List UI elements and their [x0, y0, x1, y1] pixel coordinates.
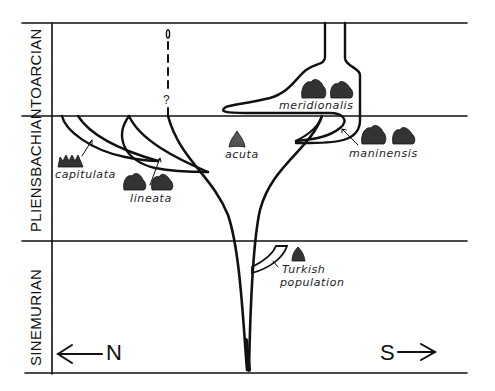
uncertain-lineage-top	[166, 30, 169, 38]
taxon-label-population: population	[280, 276, 345, 289]
diagram-canvas: ?	[0, 0, 495, 391]
maninensis-tooth-icon-2	[393, 127, 415, 144]
lineata-tooth-icon-1	[124, 173, 146, 190]
maninensis-tooth-icon-1	[362, 125, 386, 144]
direction-south-label: S	[380, 340, 395, 366]
turkish-tooth-icon	[292, 247, 305, 261]
stage-label-toarcian: TOARCIAN	[27, 28, 44, 108]
meridionalis-tooth-icon-1	[302, 79, 326, 98]
meridionalis-lineage-outer	[223, 23, 344, 141]
acuta-tooth-icon	[229, 131, 245, 147]
lineata-tooth-icon-2	[152, 174, 173, 190]
meridionalis-tooth-icon-2	[331, 81, 353, 98]
taxon-label-capitulata: capitulata	[55, 168, 116, 181]
taxon-label-maninensis: maninensis	[349, 147, 418, 160]
phylogeny-diagram: ? TOARCIAN PLIENSBACHIAN SINEMURIAN capi…	[0, 0, 495, 391]
uncertain-question-mark: ?	[163, 93, 170, 107]
stage-label-sinemurian: SINEMURIAN	[27, 269, 44, 366]
taxon-label-turkish: Turkish	[282, 263, 325, 276]
capitulata-branch-outer	[62, 116, 158, 161]
direction-north-label: N	[106, 340, 122, 366]
acuta-lineage-right-edge	[249, 116, 322, 370]
taxon-label-lineata: lineata	[130, 192, 172, 205]
taxon-label-meridionalis: meridionalis	[279, 99, 354, 112]
stage-label-pliensbachian: PLIENSBACHIAN	[27, 108, 44, 232]
taxon-label-acuta: acuta	[225, 148, 259, 161]
capitulata-tooth-icon	[58, 155, 83, 167]
